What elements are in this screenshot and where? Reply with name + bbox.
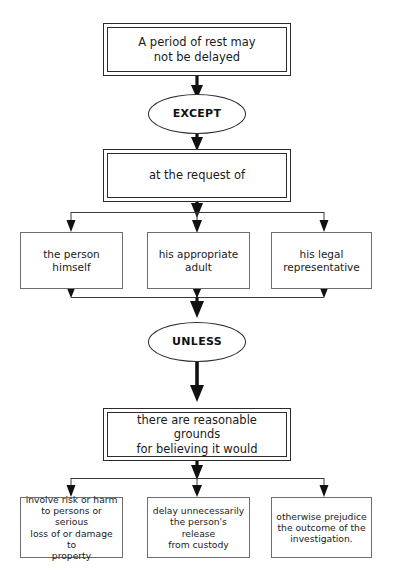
- node-unless-connector: UNLESS: [148, 322, 246, 362]
- split-bus-requesters: [67, 212, 329, 233]
- node-requester-person-label: the person himself: [39, 248, 104, 274]
- node-except-label: EXCEPT: [169, 107, 226, 120]
- node-top-statement: A period of rest may not be delayed: [103, 23, 291, 76]
- node-outcome-risk-harm-label: involve risk or harm to persons or serio…: [21, 494, 122, 561]
- merge-bus-requesters: [67, 287, 329, 318]
- node-grounds-statement: there are reasonable grounds for believi…: [103, 408, 291, 461]
- node-except-connector: EXCEPT: [148, 94, 246, 134]
- node-outcome-risk-harm: involve risk or harm to persons or serio…: [20, 497, 123, 558]
- node-request-statement-label: at the request of: [145, 168, 249, 182]
- node-top-statement-label: A period of rest may not be delayed: [134, 35, 259, 63]
- arrow-grounds-to-split: [191, 461, 203, 480]
- node-outcome-delay-release: delay unnecessarily the person's release…: [147, 497, 250, 558]
- node-requester-legal-representative-label: his legal representative: [279, 248, 364, 274]
- node-outcome-prejudice-investigation-label: otherwise prejudice the outcome of the i…: [272, 511, 370, 545]
- node-outcome-prejudice-investigation: otherwise prejudice the outcome of the i…: [271, 497, 372, 558]
- arrow-unless-to-grounds: [190, 362, 204, 402]
- node-requester-legal-representative: his legal representative: [271, 232, 372, 289]
- node-unless-label: UNLESS: [168, 335, 226, 348]
- node-grounds-statement-label: there are reasonable grounds for believi…: [108, 413, 286, 455]
- node-requester-person: the person himself: [20, 232, 123, 289]
- node-request-statement: at the request of: [103, 149, 291, 202]
- node-requester-appropriate-adult-label: his appropriate adult: [155, 248, 243, 274]
- node-outcome-delay-release-label: delay unnecessarily the person's release…: [148, 505, 249, 550]
- node-requester-appropriate-adult: his appropriate adult: [147, 232, 250, 289]
- flowchart-canvas: A period of rest may not be delayed EXCE…: [0, 0, 394, 580]
